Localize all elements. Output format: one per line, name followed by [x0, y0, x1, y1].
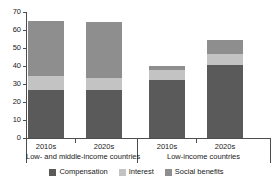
- category-label-4: 2020s: [200, 142, 250, 151]
- bar-segment-interest: [28, 76, 64, 90]
- y-axis-tick-label: 30: [13, 80, 21, 88]
- legend-item-social-benefits[interactable]: Social benefits: [165, 168, 224, 176]
- category-label-1: 2010s: [21, 142, 71, 151]
- y-axis-tick-label: 40: [13, 62, 21, 70]
- bar-2: [86, 22, 122, 138]
- y-axis-tick-label: 20: [13, 98, 21, 106]
- y-axis-tick-label: 10: [13, 116, 21, 124]
- category-axis-tick-1: [75, 139, 76, 143]
- y-axis-tick-label: 70: [13, 8, 21, 16]
- bar-segment-interest: [86, 78, 122, 91]
- bar-segment-compensation: [149, 80, 185, 138]
- bar-segment-social-benefits: [207, 40, 243, 54]
- bar-segment-interest: [207, 54, 243, 65]
- chart-container: 706050403020100 2010s2020s2010s2020sLow-…: [0, 0, 273, 187]
- bar-1: [28, 21, 64, 138]
- category-axis: 2010s2020s2010s2020sLow- and middle-inco…: [26, 139, 271, 163]
- chart-title: [12, 0, 262, 2]
- bar-segment-interest: [149, 70, 185, 81]
- legend-swatch-icon: [119, 169, 126, 176]
- legend-label: Compensation: [59, 168, 107, 176]
- category-axis-divider-3: [270, 139, 271, 163]
- category-label-2: 2020s: [79, 142, 129, 151]
- bar-segment-compensation: [207, 65, 243, 138]
- chart-legend: CompensationInterestSocial benefits: [0, 168, 273, 176]
- y-axis-tick-label: 0: [17, 134, 21, 142]
- category-axis-tick-2: [196, 139, 197, 143]
- category-label-3: 2010s: [142, 142, 192, 151]
- legend-swatch-icon: [165, 169, 172, 176]
- legend-item-compensation[interactable]: Compensation: [49, 168, 107, 176]
- bar-segment-social-benefits: [86, 22, 122, 78]
- bar-segment-compensation: [28, 90, 64, 138]
- bar-segment-compensation: [86, 90, 122, 138]
- bar-segment-social-benefits: [28, 21, 64, 76]
- legend-item-interest[interactable]: Interest: [119, 168, 154, 176]
- bar-3: [149, 66, 185, 138]
- y-axis-tick-label: 60: [13, 26, 21, 34]
- bar-4: [207, 40, 243, 138]
- legend-label: Social benefits: [175, 168, 224, 176]
- legend-label: Interest: [129, 168, 154, 176]
- group-label-2: Low-income countries: [137, 152, 270, 161]
- y-axis-tick-label: 50: [13, 44, 21, 52]
- plot-area: [26, 12, 270, 138]
- group-label-1: Low- and middle-income countries: [26, 152, 137, 161]
- legend-swatch-icon: [49, 169, 56, 176]
